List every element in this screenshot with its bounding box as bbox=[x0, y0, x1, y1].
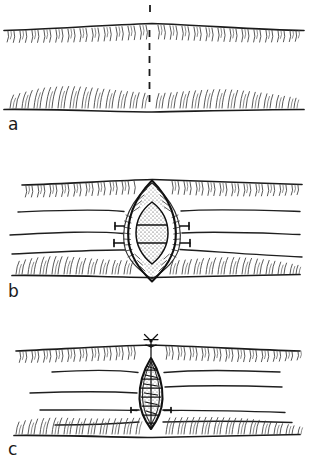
deep-skin-line-c bbox=[14, 435, 300, 438]
panel-a: a bbox=[0, 0, 309, 155]
panel-b: b bbox=[0, 155, 309, 315]
tissue-planes-left-b bbox=[10, 210, 125, 254]
superficial-hatching-secondary bbox=[10, 25, 299, 39]
panel-c: c bbox=[0, 315, 309, 467]
panel-label-a: a bbox=[8, 116, 18, 133]
tissue-planes-left-c bbox=[30, 370, 139, 425]
superficial-skin-line-b bbox=[22, 180, 302, 186]
deep-hatching bbox=[10, 87, 296, 109]
panel-label-c: c bbox=[8, 441, 17, 458]
figure-root: a bbox=[0, 0, 309, 467]
superficial-skin-line-c bbox=[16, 345, 300, 351]
panel-c-illustration bbox=[0, 315, 309, 467]
panel-a-illustration bbox=[0, 0, 309, 155]
panel-b-illustration bbox=[0, 155, 309, 315]
knot-node bbox=[149, 339, 152, 342]
wound-closed-c bbox=[131, 335, 171, 431]
wound-cavity-b bbox=[130, 202, 174, 264]
deep-hatching-c-secondary bbox=[19, 421, 303, 434]
tissue-planes-right-c bbox=[163, 370, 292, 422]
superficial-skin-line bbox=[4, 24, 304, 31]
deep-skin-line bbox=[4, 109, 304, 112]
tissue-planes-right-b bbox=[180, 210, 302, 257]
panel-label-b: b bbox=[8, 283, 19, 300]
